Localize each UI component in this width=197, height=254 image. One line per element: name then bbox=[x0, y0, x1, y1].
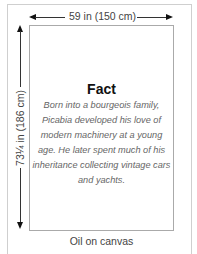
arrow-right-icon bbox=[166, 14, 173, 20]
width-dimension-line-left bbox=[35, 17, 65, 18]
height-dimension-label: 73¼ in (186 cm) bbox=[14, 90, 26, 166]
height-dimension-line-top bbox=[20, 31, 21, 87]
arrow-down-icon bbox=[17, 222, 23, 229]
fact-body: Born into a bourgeois family, Picabia de… bbox=[31, 98, 172, 188]
medium-label: Oil on canvas bbox=[29, 235, 174, 247]
width-dimension-line-right bbox=[137, 17, 167, 18]
width-dimension-label: 59 in (150 cm) bbox=[69, 10, 133, 22]
height-dimension-line-bottom bbox=[20, 168, 21, 223]
fact-title: Fact bbox=[29, 81, 174, 97]
